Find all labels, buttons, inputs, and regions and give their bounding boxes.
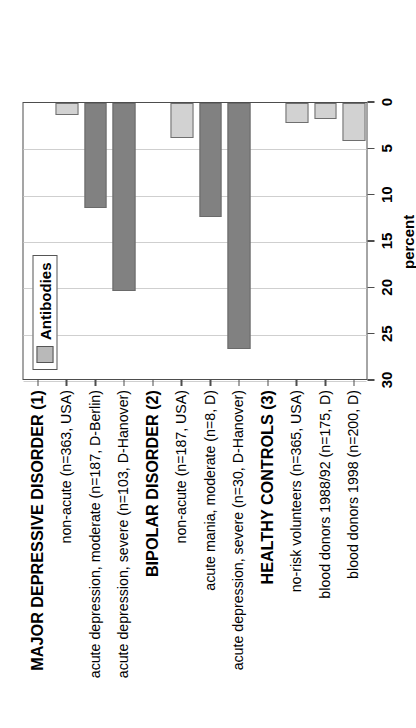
value-tick	[367, 101, 374, 102]
category-label: acute depression, severe (n=103, D-Hanov…	[108, 390, 137, 678]
bar-slot	[311, 103, 340, 379]
category-tick	[353, 379, 354, 386]
bar	[342, 103, 365, 141]
category-tick	[180, 379, 181, 386]
value-tick-label: 20	[377, 279, 394, 296]
bar	[84, 103, 107, 208]
category-tick	[209, 379, 210, 386]
value-tick	[367, 379, 374, 380]
value-tick-label: 10	[377, 186, 394, 203]
bar-slot	[167, 103, 196, 379]
bar-slot	[339, 103, 368, 379]
category-axis-labels: MAJOR DEPRESSIVE DISORDER (1)non-acute (…	[22, 384, 367, 728]
bar	[55, 103, 78, 115]
bar-slot	[109, 103, 138, 379]
bar-slot	[253, 103, 282, 379]
value-tick	[367, 333, 374, 334]
gridline	[23, 381, 366, 382]
category-label: no-risk volunteers (n=365, USA)	[281, 390, 310, 592]
bar	[112, 103, 135, 291]
category-label: acute depression, moderate (n=187, D-Ber…	[80, 390, 109, 678]
value-tick-label: 0	[377, 98, 394, 106]
value-tick	[367, 240, 374, 241]
bar-slot	[196, 103, 225, 379]
category-label: blood donors 1998 (n=200, D)	[338, 390, 367, 579]
value-tick-label: 15	[377, 233, 394, 250]
bar	[227, 103, 250, 349]
value-tick-label: 25	[377, 325, 394, 342]
bar	[314, 103, 337, 119]
category-label: HEALTHY CONTROLS (3)	[252, 390, 281, 585]
category-tick	[37, 379, 38, 386]
category-tick	[94, 379, 95, 386]
category-label: MAJOR DEPRESSIVE DISORDER (1)	[22, 390, 51, 671]
category-tick	[152, 379, 153, 386]
bar-slot	[224, 103, 253, 379]
bar	[199, 103, 222, 217]
chart-legend: Antibodies	[32, 256, 57, 371]
category-tick	[267, 379, 268, 386]
category-label: non-acute (n=363, USA)	[51, 390, 80, 543]
bar	[285, 103, 308, 123]
category-label: BIPOLAR DISORDER (2)	[137, 390, 166, 577]
bar-slot	[81, 103, 110, 379]
value-tick-label: 30	[377, 372, 394, 389]
category-label: acute mania, moderate (n=8, D)	[195, 390, 224, 591]
category-label: non-acute (n=187, USA)	[166, 390, 195, 543]
bar-slot	[282, 103, 311, 379]
value-tick-label: 5	[377, 144, 394, 152]
category-label: acute depression, severe (n=30, D-Hanove…	[223, 390, 252, 670]
axis-title-percent: percent	[399, 215, 416, 269]
value-tick	[367, 148, 374, 149]
value-tick	[367, 287, 374, 288]
category-tick	[238, 379, 239, 386]
plot-area	[22, 102, 367, 380]
category-tick	[324, 379, 325, 386]
bar	[170, 103, 193, 138]
category-tick	[295, 379, 296, 386]
category-tick	[65, 379, 66, 386]
bar-slot	[138, 103, 167, 379]
legend-swatch-icon	[36, 346, 53, 363]
category-label: blood donors 1988/92 (n=175, D)	[310, 390, 339, 599]
legend-label: Antibodies	[36, 263, 53, 341]
value-tick	[367, 194, 374, 195]
category-tick	[123, 379, 124, 386]
